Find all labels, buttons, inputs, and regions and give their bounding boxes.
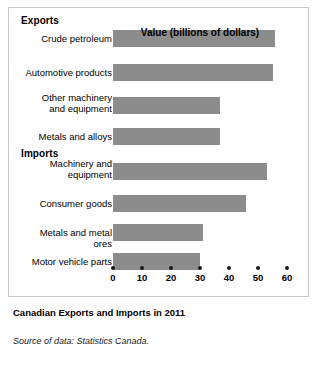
- bar-label: Other machinery and equipment: [20, 92, 112, 114]
- x-axis-tick-label: 30: [195, 272, 206, 283]
- x-axis-tick-label: 20: [166, 272, 177, 283]
- bar-machinery-and-equipment: [113, 163, 267, 180]
- bar-row: Metals and metal ores: [9, 224, 310, 241]
- bar-metals-and-metal-ores: [113, 224, 203, 241]
- bar-row: Other machinery and equipment: [9, 97, 310, 114]
- x-axis-tick: [169, 266, 173, 270]
- x-axis-tick: [140, 266, 144, 270]
- x-axis-tick-label: 60: [282, 272, 293, 283]
- bar-label: Machinery and equipment: [20, 158, 112, 180]
- x-axis-tick-label: 0: [110, 272, 115, 283]
- bar-label: Automotive products: [20, 67, 112, 78]
- bar-label: Metals and alloys: [20, 131, 112, 142]
- bar-other-machinery-and-equipment: [113, 97, 220, 114]
- x-axis-tick: [198, 266, 202, 270]
- x-axis-title-text: Value (billions of dollars): [141, 27, 259, 38]
- x-axis-tick-label: 50: [253, 272, 264, 283]
- x-axis-tick: [227, 266, 231, 270]
- bar-label: Consumer goods: [20, 198, 112, 209]
- panel-bottom-rule: [8, 296, 309, 297]
- figure-source: Source of data: Statistics Canada.: [13, 336, 149, 346]
- x-axis-tick: [256, 266, 260, 270]
- x-axis-tick: [111, 266, 115, 270]
- bar-metals-and-alloys: [113, 128, 220, 145]
- bar-row: Automotive products: [9, 64, 310, 81]
- bar-label: Crude petroleum: [20, 33, 112, 44]
- bar-consumer-goods: [113, 195, 246, 212]
- x-axis-tick-label: 40: [224, 272, 235, 283]
- x-axis: 0102030405060: [9, 266, 310, 298]
- figure-caption: Canadian Exports and Imports in 2011: [13, 307, 185, 318]
- bar-label: Metals and metal ores: [20, 227, 112, 249]
- bar-automotive-products: [113, 64, 273, 81]
- x-axis-tick: [285, 266, 289, 270]
- bar-row: Machinery and equipment: [9, 163, 310, 180]
- x-axis-tick-label: 10: [137, 272, 148, 283]
- group-heading-exports: Exports: [21, 15, 59, 26]
- chart-panel: Exports Crude petroleum Automotive produ…: [8, 7, 309, 297]
- bar-row: Metals and alloys: [9, 128, 310, 145]
- bar-row: Consumer goods: [9, 195, 310, 212]
- figure-container: Exports Crude petroleum Automotive produ…: [0, 0, 317, 366]
